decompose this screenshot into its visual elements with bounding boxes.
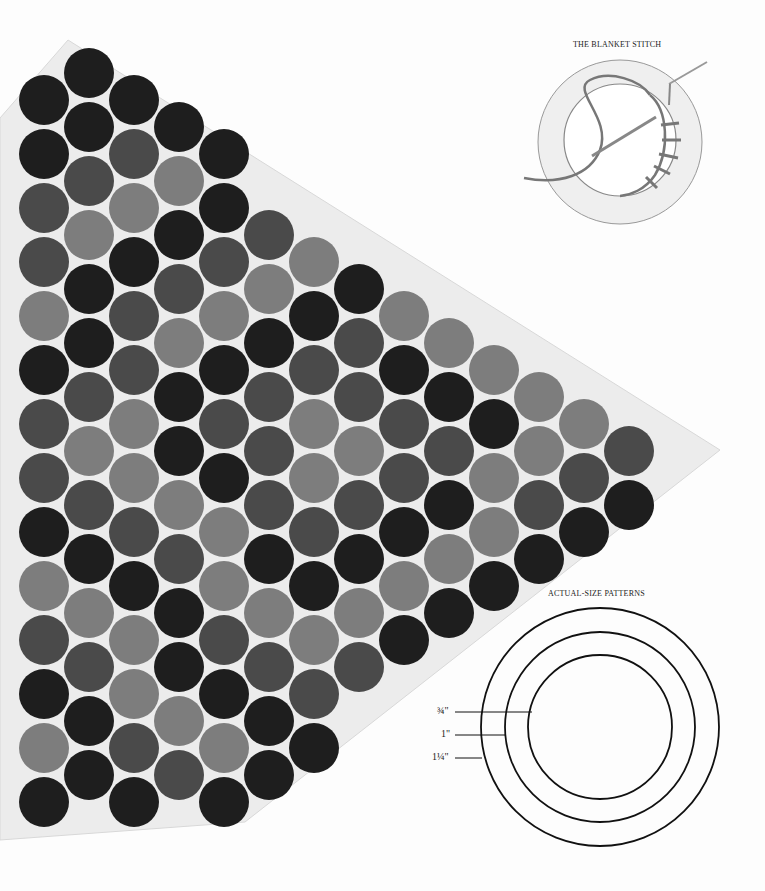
felt-circle [244,426,294,476]
felt-circle [514,372,564,422]
felt-circle [154,750,204,800]
felt-circle [244,318,294,368]
felt-circle [334,264,384,314]
felt-circle [64,264,114,314]
felt-circle [64,696,114,746]
felt-circle [379,615,429,665]
felt-circle [64,534,114,584]
felt-circle [64,156,114,206]
felt-circle [244,372,294,422]
felt-circle [199,291,249,341]
felt-circle [109,399,159,449]
felt-circle [514,534,564,584]
felt-circle [109,183,159,233]
felt-circle [19,129,69,179]
felt-circle [109,561,159,611]
felt-circle [244,210,294,260]
felt-circle [64,372,114,422]
felt-circle [289,399,339,449]
felt-circle [199,345,249,395]
felt-circle [19,723,69,773]
felt-circle [154,156,204,206]
felt-circle [64,642,114,692]
felt-circle [289,237,339,287]
felt-circle [64,480,114,530]
felt-circle [109,129,159,179]
felt-circle [154,534,204,584]
felt-circle [244,750,294,800]
felt-circle [64,210,114,260]
felt-circle [289,723,339,773]
felt-circle [19,615,69,665]
felt-circle [244,534,294,584]
felt-circle [289,453,339,503]
felt-circle [379,291,429,341]
size-label-1: 1" [441,728,450,739]
felt-circle [154,642,204,692]
felt-circle [19,75,69,125]
felt-circle [424,426,474,476]
felt-circle [19,777,69,827]
felt-circle [19,345,69,395]
felt-circle [64,750,114,800]
felt-circle-diamond [0,0,765,891]
felt-circle [199,453,249,503]
felt-circle [19,669,69,719]
felt-circle [244,264,294,314]
felt-circle [154,696,204,746]
felt-circle [424,534,474,584]
felt-circle [334,588,384,638]
felt-circle [199,237,249,287]
felt-circle [109,291,159,341]
felt-circle [19,183,69,233]
felt-circle [289,507,339,557]
patterns-title: ACTUAL-SIZE PATTERNS [548,589,645,598]
felt-circle [199,615,249,665]
felt-circle [199,723,249,773]
felt-circle [334,480,384,530]
felt-circle [64,588,114,638]
felt-circle [199,561,249,611]
felt-circle [334,534,384,584]
felt-circle [469,507,519,557]
felt-circle [109,669,159,719]
felt-circle [334,426,384,476]
felt-circle [154,210,204,260]
felt-circle [289,615,339,665]
felt-circle [154,372,204,422]
felt-circle [109,75,159,125]
felt-circle [199,183,249,233]
felt-circle [604,480,654,530]
size-label-1-25: 1¼" [432,751,449,762]
felt-circle [109,507,159,557]
felt-circle [64,48,114,98]
felt-circle [379,507,429,557]
felt-circle [289,669,339,719]
felt-circle [289,345,339,395]
felt-circle [424,318,474,368]
felt-circle [244,480,294,530]
felt-circle [199,777,249,827]
felt-circle [244,642,294,692]
felt-circle [199,399,249,449]
felt-circle [289,291,339,341]
felt-circle [514,426,564,476]
felt-circle [109,345,159,395]
felt-circle [514,480,564,530]
felt-circle [604,426,654,476]
size-label-0-75: ¾" [437,705,449,716]
felt-circle [64,318,114,368]
felt-circle [334,318,384,368]
felt-circle [424,588,474,638]
felt-circle [64,426,114,476]
felt-circle [154,426,204,476]
felt-circle [334,372,384,422]
felt-circle [154,318,204,368]
felt-circle [19,399,69,449]
felt-circle [154,264,204,314]
felt-circle [19,561,69,611]
blanket-stitch-title: THE BLANKET STITCH [573,40,661,49]
felt-circle [199,669,249,719]
felt-circle [109,453,159,503]
felt-circle [379,399,429,449]
